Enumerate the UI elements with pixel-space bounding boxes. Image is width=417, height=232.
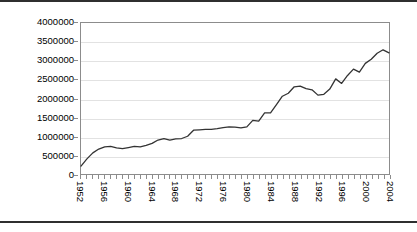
x-axis-tick xyxy=(80,175,81,179)
x-axis-tick xyxy=(92,175,93,179)
x-axis-tick xyxy=(152,175,153,179)
y-axis-tick-label: 500000 xyxy=(0,151,74,161)
y-axis-tick-label: 2500000 xyxy=(0,74,74,84)
x-axis-tick xyxy=(104,175,105,179)
y-axis-tick xyxy=(74,175,78,176)
x-axis-tick xyxy=(229,175,230,179)
x-axis-tick-label: 1968 xyxy=(170,181,180,202)
y-axis-tick-label: 1500000 xyxy=(0,113,74,123)
chart-screenshot: 0500000100000015000002000000250000030000… xyxy=(0,0,417,232)
x-axis-tick-label: 1984 xyxy=(266,181,276,202)
x-axis-tick xyxy=(181,175,182,179)
y-axis-tick-label: 4000000 xyxy=(0,17,74,27)
x-axis-tick xyxy=(122,175,123,179)
x-axis-tick xyxy=(342,175,343,179)
x-axis-tick-label: 1976 xyxy=(218,181,228,202)
x-axis-tick xyxy=(128,175,129,179)
x-axis-tick xyxy=(164,175,165,179)
x-axis-tick xyxy=(193,175,194,179)
y-axis-tick xyxy=(74,41,78,42)
x-axis-tick xyxy=(134,175,135,179)
x-axis-tick-label: 1960 xyxy=(123,181,133,202)
x-axis-tick xyxy=(378,175,379,179)
x-axis-tick xyxy=(205,175,206,179)
x-axis-tick xyxy=(146,175,147,179)
x-axis-tick-label: 1964 xyxy=(147,181,157,202)
x-axis-tick xyxy=(330,175,331,179)
x-axis-tick xyxy=(366,175,367,179)
x-axis-tick-label: 1988 xyxy=(290,181,300,202)
x-axis: 1952195619601964196819721976198019841988… xyxy=(80,175,390,231)
data-line xyxy=(81,50,389,166)
x-axis-tick xyxy=(140,175,141,179)
x-axis-tick xyxy=(348,175,349,179)
x-axis-tick-label: 1996 xyxy=(337,181,347,202)
x-axis-tick xyxy=(295,175,296,179)
x-axis-tick xyxy=(116,175,117,179)
x-axis-tick xyxy=(110,175,111,179)
y-axis-tick xyxy=(74,118,78,119)
x-axis-tick xyxy=(175,175,176,179)
x-axis-tick-label: 2000 xyxy=(361,181,371,202)
x-axis-tick xyxy=(199,175,200,179)
frame-top-rule xyxy=(0,0,417,2)
x-axis-tick-label: 1952 xyxy=(75,181,85,202)
x-axis-tick xyxy=(253,175,254,179)
y-axis: 0500000100000015000002000000250000030000… xyxy=(0,22,74,175)
x-axis-tick xyxy=(259,175,260,179)
x-axis-tick xyxy=(301,175,302,179)
x-axis-tick xyxy=(247,175,248,179)
y-axis-tick-label: 3000000 xyxy=(0,55,74,65)
x-axis-tick xyxy=(235,175,236,179)
x-axis-tick xyxy=(313,175,314,179)
y-axis-tick-label: 2000000 xyxy=(0,94,74,104)
x-axis-tick xyxy=(384,175,385,179)
y-axis-tick xyxy=(74,137,78,138)
x-axis-tick xyxy=(169,175,170,179)
x-axis-tick xyxy=(354,175,355,179)
x-axis-tick xyxy=(271,175,272,179)
y-axis-tick xyxy=(74,22,78,23)
x-axis-tick xyxy=(187,175,188,179)
x-axis-tick xyxy=(307,175,308,179)
y-axis-tick-label: 1000000 xyxy=(0,132,74,142)
y-axis-tick-label: 3500000 xyxy=(0,36,74,46)
x-axis-tick xyxy=(223,175,224,179)
x-axis-tick xyxy=(241,175,242,179)
x-axis-tick xyxy=(336,175,337,179)
x-axis-tick xyxy=(283,175,284,179)
x-axis-tick xyxy=(372,175,373,179)
x-axis-tick-label: 1980 xyxy=(242,181,252,202)
x-axis-tick xyxy=(319,175,320,179)
line-series xyxy=(81,23,389,174)
x-axis-tick-label: 2004 xyxy=(385,181,395,202)
x-axis-tick xyxy=(360,175,361,179)
x-axis-tick xyxy=(98,175,99,179)
x-axis-tick xyxy=(86,175,87,179)
x-axis-tick-label: 1972 xyxy=(194,181,204,202)
x-axis-tick xyxy=(390,175,391,179)
y-axis-tick xyxy=(74,99,78,100)
x-axis-tick xyxy=(265,175,266,179)
y-axis-tick-label: 0 xyxy=(0,170,74,180)
x-axis-tick xyxy=(277,175,278,179)
y-axis-tick xyxy=(74,156,78,157)
y-axis-tick xyxy=(74,79,78,80)
x-axis-tick xyxy=(158,175,159,179)
y-axis-tick xyxy=(74,60,78,61)
x-axis-tick-label: 1956 xyxy=(99,181,109,202)
x-axis-tick xyxy=(211,175,212,179)
x-axis-tick xyxy=(324,175,325,179)
x-axis-tick xyxy=(289,175,290,179)
x-axis-tick xyxy=(217,175,218,179)
plot-area xyxy=(80,22,390,175)
x-axis-tick-label: 1992 xyxy=(314,181,324,202)
